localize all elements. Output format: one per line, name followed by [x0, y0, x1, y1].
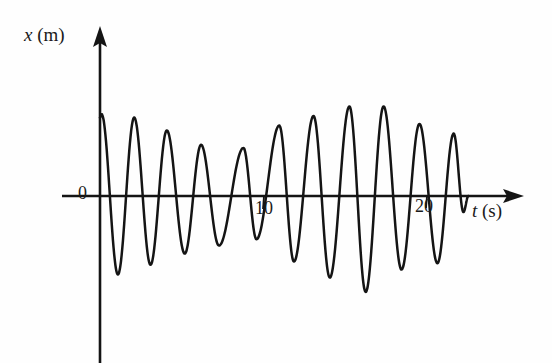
- y-axis-unit: (m): [37, 24, 64, 45]
- y-axis-label: x (m): [24, 24, 65, 46]
- oscillation-curve: [100, 106, 468, 292]
- tick-label-10: 10: [255, 198, 273, 219]
- x-axis-label: t (s): [472, 200, 502, 222]
- x-axis-unit: (s): [482, 200, 502, 221]
- tick-label-20: 20: [415, 196, 433, 217]
- tick-label-origin: 0: [78, 183, 87, 204]
- plot-canvas: [0, 0, 552, 363]
- oscillation-figure: x (m) t (s) 0 10 20: [0, 0, 552, 363]
